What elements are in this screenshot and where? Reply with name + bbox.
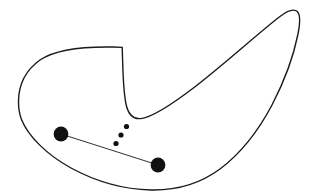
ellipsis-dot-2 (118, 132, 123, 137)
ellipsis-dot-3 (113, 141, 118, 146)
point-left-marker (54, 127, 69, 142)
figure-canvas (0, 0, 312, 193)
shape-diagram (0, 0, 312, 193)
ellipsis-dot-1 (124, 124, 129, 129)
point-right-marker (151, 158, 166, 173)
